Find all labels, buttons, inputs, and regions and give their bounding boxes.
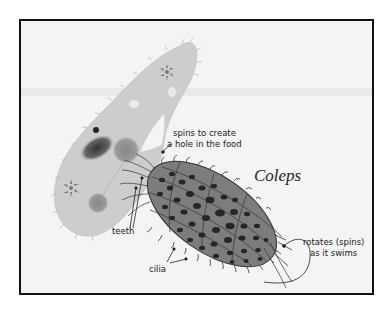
label-spins-line1: spins to create <box>173 128 236 138</box>
label-rotates-line2: as it swims <box>310 248 357 258</box>
label-rotates-line1: rotates (spins) <box>303 237 364 247</box>
label-cilia: cilia <box>149 264 166 274</box>
label-spins-line2: a hole in the food <box>167 139 242 149</box>
diagram-title: Coleps <box>254 166 301 186</box>
diagram-frame: spins to create a hole in the food Colep… <box>19 19 374 295</box>
label-teeth: teeth <box>112 226 135 236</box>
